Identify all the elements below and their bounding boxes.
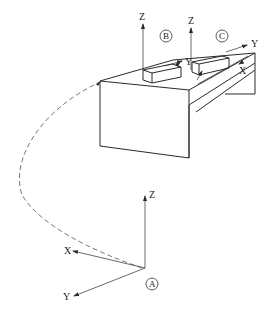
frame-a: Z X Y A	[63, 189, 158, 302]
frame-b: Z Y B	[139, 11, 192, 70]
frame-b-z-label: Z	[139, 11, 145, 22]
frame-c-y-label: Y	[251, 38, 258, 49]
workpiece-block	[100, 53, 255, 158]
frame-c-x-axis-2	[239, 62, 243, 64]
frame-c-marker-label: C	[219, 31, 225, 41]
frame-b-marker-label: B	[163, 31, 169, 41]
frame-a-marker-label: A	[149, 279, 156, 289]
part-c-box	[192, 56, 229, 75]
frame-a-z-label: Z	[149, 189, 155, 200]
frame-a-x-axis	[73, 251, 145, 268]
workpiece-diagram: Z Y B Z Y X C Z X Y A	[0, 0, 269, 313]
frame-a-y-label: Y	[63, 291, 70, 302]
dashed-trajectory	[19, 82, 142, 268]
frame-a-x-label: X	[64, 245, 72, 256]
frame-c-z-label: Z	[188, 15, 194, 26]
frame-a-y-axis	[74, 268, 145, 296]
frame-c-x-label: X	[239, 65, 247, 76]
frame-c-y-axis	[226, 45, 247, 52]
